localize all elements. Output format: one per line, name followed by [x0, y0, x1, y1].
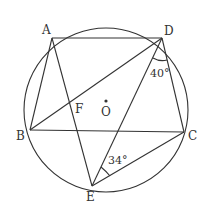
segment-AE [52, 38, 92, 186]
angle-arc-E [101, 167, 110, 176]
label-E: E [86, 190, 95, 204]
label-C: C [188, 129, 197, 143]
angle-label-D: 40° [150, 67, 170, 80]
geometry-diagram: A D B C E F O 40° 34° [0, 0, 204, 217]
label-A: A [41, 23, 51, 37]
angle-arc-D [153, 58, 167, 61]
label-F: F [75, 102, 83, 116]
segment-AB [30, 38, 52, 130]
label-D: D [164, 24, 174, 38]
label-O: O [101, 105, 111, 119]
segment-EC [92, 132, 184, 186]
segment-DC [162, 38, 184, 132]
label-B: B [16, 129, 25, 143]
segment-BC [30, 130, 184, 132]
segment-BD [30, 38, 162, 130]
angle-label-E: 34° [108, 154, 128, 167]
center-point [104, 99, 107, 102]
